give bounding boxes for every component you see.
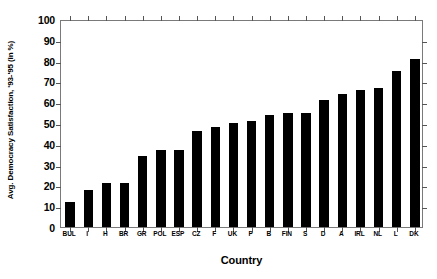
y-axis-tick-mark <box>422 208 427 209</box>
y-axis-tick-label: 50 <box>44 119 55 130</box>
bar <box>211 127 220 227</box>
x-axis-tick-label: F <box>212 231 216 238</box>
x-axis-tick-label: B <box>266 231 271 238</box>
y-axis-tick-label: 90 <box>44 36 55 47</box>
x-axis-tick-label: L <box>394 231 398 238</box>
x-axis-tick-label: CZ <box>192 231 200 238</box>
x-axis-tick-label: DK <box>409 231 418 238</box>
plot-area <box>60 20 423 228</box>
y-axis-tick-label: 70 <box>44 77 55 88</box>
x-axis-tick-label: S <box>303 231 307 238</box>
y-axis-tick-labels: 1009080706050403020100 <box>20 14 58 230</box>
bar <box>229 123 238 227</box>
bar <box>65 202 74 227</box>
x-axis-tick-label: D <box>321 231 326 238</box>
bar <box>120 183 129 227</box>
x-axis-tick-label: UK <box>228 231 237 238</box>
bar <box>192 131 201 227</box>
bar <box>356 90 365 227</box>
x-axis-tick-label: H <box>103 231 108 238</box>
x-axis-tick-label: NL <box>373 231 381 238</box>
y-axis-tick-label: 80 <box>44 56 55 67</box>
y-axis-tick-mark <box>422 104 427 105</box>
x-axis-tick-label: ESP <box>172 231 185 238</box>
x-axis-tick-label: P <box>248 231 252 238</box>
y-axis-tick-label: 40 <box>44 140 55 151</box>
y-axis-tick-label: 30 <box>44 160 55 171</box>
y-axis-tick-mark <box>422 42 427 43</box>
x-axis-tick-label: BR <box>119 231 128 238</box>
x-axis-tick-label: GR <box>137 231 147 238</box>
y-axis-tick-mark <box>422 125 427 126</box>
bar <box>174 150 183 227</box>
bar-chart-figure: Avg. Democracy Satisfaction, '93-'95 (in… <box>0 0 437 279</box>
bar <box>338 94 347 227</box>
bar <box>102 183 111 227</box>
bar <box>392 71 401 227</box>
bar <box>301 113 310 227</box>
y-axis-tick-label: 0 <box>49 223 55 234</box>
bar <box>410 59 419 227</box>
y-axis-tick-mark <box>422 146 427 147</box>
y-axis-title-container: Avg. Democracy Satisfaction, '93-'95 (in… <box>0 0 22 240</box>
y-axis-tick-label: 60 <box>44 98 55 109</box>
x-axis-title: Country <box>60 254 423 266</box>
y-axis-title: Avg. Democracy Satisfaction, '93-'95 (in… <box>7 41 15 199</box>
y-axis-tick-mark <box>422 63 427 64</box>
bar <box>265 115 274 227</box>
bar <box>319 100 328 227</box>
bar <box>84 190 93 227</box>
x-axis-tick-label: IRL <box>354 231 364 238</box>
x-axis-tick-labels: BULIHBRGRPOLESPCZFUKPBFINSDAIRLNLLDK <box>60 231 423 245</box>
bar-series <box>61 21 422 227</box>
y-axis-tick-label: 20 <box>44 181 55 192</box>
y-axis-tick-label: 10 <box>44 202 55 213</box>
bar <box>156 150 165 227</box>
y-axis-tick-mark <box>422 167 427 168</box>
y-axis-tick-mark <box>422 187 427 188</box>
x-axis-tick-label: BUL <box>63 231 76 238</box>
x-axis-tick-label: POL <box>153 231 166 238</box>
x-axis-tick-label: I <box>86 231 88 238</box>
x-axis-tick-label: A <box>339 231 344 238</box>
x-axis-tick-label: FIN <box>282 231 292 238</box>
bar <box>247 121 256 227</box>
bar <box>138 156 147 227</box>
y-axis-tick-mark <box>422 83 427 84</box>
bar <box>374 88 383 227</box>
y-axis-tick-label: 100 <box>38 15 55 26</box>
bar <box>283 113 292 227</box>
